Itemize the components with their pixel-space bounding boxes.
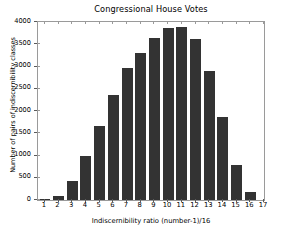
bar-series <box>38 22 264 200</box>
x-tick-mark-top <box>153 21 154 24</box>
bar <box>53 196 64 200</box>
y-tick-mark-inner <box>37 43 40 44</box>
bar <box>67 181 78 200</box>
bar <box>122 68 133 200</box>
bar <box>163 28 174 200</box>
bar <box>176 27 187 200</box>
x-tick-mark-top <box>195 21 196 24</box>
x-tick-mark-top <box>236 21 237 24</box>
plot-area <box>37 21 265 201</box>
x-tick-mark-top <box>58 21 59 24</box>
y-tick-label: 3500 <box>0 40 31 47</box>
x-tick-mark-top <box>222 21 223 24</box>
x-axis-label: Indiscernibility ratio (number-1)/16 <box>37 217 265 225</box>
y-tick-mark-inner <box>37 66 40 67</box>
bar <box>149 38 160 200</box>
y-tick-mark-inner <box>37 132 40 133</box>
bar <box>80 156 91 200</box>
x-tick-mark-top <box>167 21 168 24</box>
chart-figure: Congressional House Votes Number of pair… <box>0 0 290 236</box>
chart-title: Congressional House Votes <box>37 4 265 14</box>
x-tick-mark-top <box>126 21 127 24</box>
x-tick-mark-top <box>99 21 100 24</box>
bar <box>94 126 105 200</box>
x-tick-mark-top <box>263 21 264 24</box>
y-tick-label: 500 <box>0 173 31 180</box>
y-tick-mark-inner <box>37 21 40 22</box>
x-tick-label: 17 <box>255 201 271 209</box>
x-tick-mark-top <box>112 21 113 24</box>
bar <box>108 95 119 200</box>
bar <box>135 53 146 200</box>
bar <box>231 165 242 200</box>
y-tick-mark-inner <box>37 110 40 111</box>
x-tick-mark-top <box>44 21 45 24</box>
x-tick-mark-top <box>140 21 141 24</box>
y-tick-mark-inner <box>37 199 40 200</box>
y-tick-label: 1500 <box>0 129 31 136</box>
x-tick-mark-top <box>249 21 250 24</box>
x-tick-mark-top <box>208 21 209 24</box>
x-tick-mark-top <box>85 21 86 24</box>
y-tick-label: 0 <box>0 196 31 203</box>
bar <box>204 71 215 200</box>
y-tick-mark-inner <box>37 155 40 156</box>
x-tick-mark-top <box>71 21 72 24</box>
bar <box>190 39 201 200</box>
y-tick-label: 4000 <box>0 18 31 25</box>
y-tick-label: 1000 <box>0 151 31 158</box>
y-tick-label: 3000 <box>0 62 31 69</box>
y-tick-mark-inner <box>37 88 40 89</box>
y-tick-mark-inner <box>37 177 40 178</box>
x-tick-mark-top <box>181 21 182 24</box>
y-tick-label: 2500 <box>0 84 31 91</box>
y-tick-label: 2000 <box>0 107 31 114</box>
bar <box>217 117 228 200</box>
